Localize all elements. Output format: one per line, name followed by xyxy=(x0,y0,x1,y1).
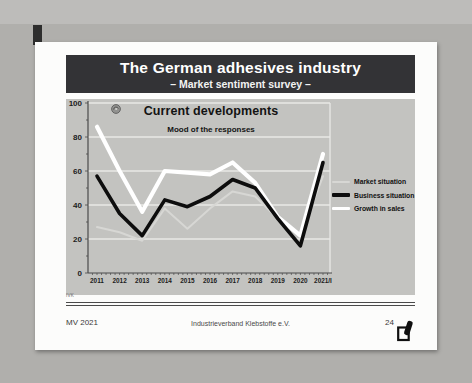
photographed-slide-background: { "slide": { "title": "The German adhesi… xyxy=(0,0,472,383)
legend-label-business-situation: Business situation xyxy=(354,192,414,199)
footer-divider xyxy=(66,302,415,306)
svg-text:2020: 2020 xyxy=(293,277,308,284)
svg-text:80: 80 xyxy=(73,133,82,142)
svg-text:60: 60 xyxy=(73,167,82,176)
svg-text:2014: 2014 xyxy=(158,277,173,284)
footer-center-text: Industrieverband Klebstoffe e.V. xyxy=(66,320,415,327)
svg-text:2017: 2017 xyxy=(225,277,240,284)
svg-text:2021/I: 2021/I xyxy=(314,277,332,284)
legend-swatch-business-situation xyxy=(332,193,350,196)
chart-title: Current developments xyxy=(111,104,311,118)
svg-text:2018: 2018 xyxy=(248,277,263,284)
svg-text:2016: 2016 xyxy=(203,277,218,284)
legend-row-growth-in-sales: Growth in sales xyxy=(332,205,415,212)
legend-label-market-situation: Market situation xyxy=(354,178,406,185)
legend-swatch-growth-in-sales xyxy=(332,207,350,211)
title-bar: The German adhesives industry – Market s… xyxy=(66,55,415,93)
svg-text:20: 20 xyxy=(73,235,82,244)
legend-row-market-situation: Market situation xyxy=(332,178,415,185)
svg-text:100: 100 xyxy=(69,99,83,108)
photo-light-band xyxy=(0,0,472,24)
svg-text:2012: 2012 xyxy=(112,277,127,284)
slide-subtitle: – Market sentiment survey – xyxy=(66,78,415,90)
mood-icon xyxy=(111,104,121,114)
sentiment-chart: 0204060801002011201220132014201520162017… xyxy=(66,99,415,295)
chart-legend: Market situation Business situation Grow… xyxy=(332,178,415,219)
legend-label-growth-in-sales: Growth in sales xyxy=(354,205,405,212)
page-number: 24 xyxy=(385,318,394,327)
svg-text:40: 40 xyxy=(73,201,82,210)
slide: The German adhesives industry – Market s… xyxy=(35,42,437,350)
svg-text:2013: 2013 xyxy=(135,277,150,284)
svg-text:2019: 2019 xyxy=(271,277,286,284)
ivk-logo-icon xyxy=(397,320,414,343)
legend-swatch-market-situation xyxy=(332,181,350,183)
chart-subtitle: Mood of the responses xyxy=(167,125,255,134)
svg-text:0: 0 xyxy=(78,269,83,278)
chart-title-block: Current developments Mood of the respons… xyxy=(111,104,311,136)
svg-text:2015: 2015 xyxy=(180,277,195,284)
legend-row-business-situation: Business situation xyxy=(332,192,415,199)
slide-title: The German adhesives industry xyxy=(66,59,415,77)
chart-subtitle-row: Mood of the responses xyxy=(167,125,255,134)
svg-text:2011: 2011 xyxy=(90,277,104,284)
footer-note: IVK xyxy=(66,293,74,298)
